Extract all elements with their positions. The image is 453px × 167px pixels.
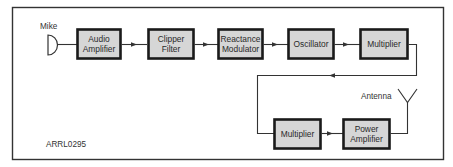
antenna-label: Antenna [361,92,392,101]
block-label: Multiplier [367,39,401,49]
antenna-icon [398,89,417,103]
block-label-line2: Amplifier [83,44,116,54]
arrowhead-icon [131,42,137,46]
fm-transmitter-diagram: Mike Audio Amplifier Clipper Filter Reac… [0,0,453,167]
block-label-line2: Amplifier [350,134,383,144]
block-power-amplifier: Power Amplifier [344,120,390,149]
mike-label: Mike [40,22,58,31]
arrowhead-icon [343,42,349,46]
block-label-line1: Reactance [220,34,260,44]
block-multiplier-1: Multiplier [361,30,408,59]
block-multiplier-2: Multiplier [275,120,321,149]
block-clipper-filter: Clipper Filter [149,30,194,59]
arrowhead-icon [272,42,278,46]
block-label: Oscillator [294,39,329,49]
block-label-line2: Modulator [222,44,259,54]
block-oscillator: Oscillator [289,30,334,59]
block-label-line1: Power [355,124,379,134]
arrowhead-icon [203,42,209,46]
block-reactance-modulator: Reactance Modulator [219,30,263,59]
connector-power-antenna [391,102,408,134]
block-label-line2: Filter [162,44,181,54]
figure-id-label: ARRL0295 [46,140,87,149]
arrowhead-icon [329,73,335,77]
block-audio-amplifier: Audio Amplifier [78,30,121,59]
microphone-icon [48,35,58,55]
block-label-line1: Audio [88,34,110,44]
arrowhead-icon [327,131,333,135]
block-label: Multiplier [281,129,315,139]
block-label-line1: Clipper [158,34,185,44]
